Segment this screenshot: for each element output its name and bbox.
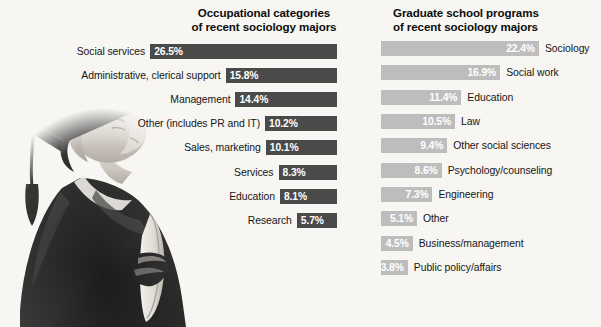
chart-row: 26.5%Social services	[140, 44, 337, 59]
bar-category-label: Research	[248, 213, 292, 228]
chart-row: 10.2%Other (includes PR and IT)	[140, 116, 337, 131]
bar: 26.5%Social services	[150, 44, 337, 59]
bar: 22.4%Sociology	[381, 41, 539, 56]
chart-row: 10.1%Sales, marketing	[140, 140, 337, 155]
chart-row: 15.8%Administrative, clerical support	[140, 68, 337, 83]
bar-category-label: Administrative, clerical support	[81, 68, 220, 83]
bar: 8.6%Psychology/counseling	[381, 163, 442, 178]
bar-category-label: Other social sciences	[453, 138, 551, 153]
bar: 15.8%Administrative, clerical support	[226, 68, 337, 83]
bar-category-label: Other (includes PR and IT)	[138, 116, 260, 131]
bar-category-label: Law	[461, 114, 480, 129]
bar-value-label: 16.9%	[467, 65, 496, 80]
bar-category-label: Education	[229, 189, 275, 204]
chart-row: 14.4%Management	[140, 92, 337, 107]
chart-row: 8.3%Services	[140, 165, 337, 180]
bar-value-label: 10.2%	[269, 116, 298, 131]
bar: 4.5%Business/management	[381, 236, 413, 251]
chart-title-graduate: Graduate school programs of recent socio…	[393, 6, 561, 33]
bar-category-label: Management	[170, 92, 230, 107]
bar-category-label: Public policy/affairs	[414, 260, 502, 275]
chart-title-graduate-line2: of recent sociology majors	[393, 20, 561, 34]
bar-category-label: Education	[467, 90, 513, 105]
bar-value-label: 4.5%	[386, 236, 409, 251]
chart-row: 11.4%Education	[381, 90, 541, 105]
bar-value-label: 9.4%	[420, 138, 443, 153]
bar: 10.5%Law	[381, 114, 455, 129]
chart-row: 3.8%Public policy/affairs	[381, 260, 541, 275]
bar-value-label: 22.4%	[506, 41, 535, 56]
bar-category-label: Services	[234, 165, 273, 180]
bar-category-label: Sales, marketing	[184, 140, 261, 155]
bar-value-label: 8.3%	[283, 165, 306, 180]
chart-row: 10.5%Law	[381, 114, 541, 129]
chart-title-graduate-line1: Graduate school programs	[393, 6, 561, 20]
chart-row: 9.4%Other social sciences	[381, 138, 541, 153]
infographic-canvas: Occupational categories of recent sociol…	[0, 0, 601, 327]
bar: 8.1%Education	[280, 189, 337, 204]
bar-value-label: 11.4%	[429, 90, 457, 105]
bar-category-label: Social services	[77, 44, 146, 59]
bar: 9.4%Other social sciences	[381, 138, 447, 153]
bar-category-label: Other	[423, 211, 449, 226]
bar-value-label: 5.1%	[390, 211, 413, 226]
bar: 11.4%Education	[381, 90, 461, 105]
bar: 10.2%Other (includes PR and IT)	[265, 116, 337, 131]
chart-row: 22.4%Sociology	[381, 41, 541, 56]
bar: 5.7%Research	[297, 213, 337, 228]
chart-row: 5.7%Research	[140, 213, 337, 228]
bar: 10.1%Sales, marketing	[266, 140, 337, 155]
bar-value-label: 8.1%	[284, 189, 307, 204]
bar: 7.3%Engineering	[381, 187, 432, 202]
bar-category-label: Social work	[506, 65, 559, 80]
bar-value-label: 14.4%	[239, 92, 268, 107]
bar-value-label: 8.6%	[415, 163, 438, 178]
bar: 5.1%Other	[381, 211, 417, 226]
chart-title-occupational: Occupational categories of recent sociol…	[189, 6, 339, 33]
bar: 14.4%Management	[235, 92, 337, 107]
chart-row: 4.5%Business/management	[381, 236, 541, 251]
bar-value-label: 15.8%	[230, 68, 259, 83]
bar-category-label: Psychology/counseling	[448, 163, 553, 178]
bar-category-label: Engineering	[438, 187, 493, 202]
bar-value-label: 5.7%	[301, 213, 324, 228]
bar: 16.9%Social work	[381, 65, 500, 80]
bar-value-label: 7.3%	[405, 187, 428, 202]
chart-row: 5.1%Other	[381, 211, 541, 226]
chart-row: 8.6%Psychology/counseling	[381, 163, 541, 178]
bar-value-label: 10.5%	[422, 114, 451, 129]
chart-title-occupational-line1: Occupational categories	[189, 6, 339, 20]
chart-row: 8.1%Education	[140, 189, 337, 204]
bar: 8.3%Services	[279, 165, 338, 180]
bar-value-label: 10.1%	[270, 140, 299, 155]
chart-title-occupational-line2: of recent sociology majors	[189, 20, 339, 34]
bar-value-label: 26.5%	[154, 44, 183, 59]
chart-row: 16.9%Social work	[381, 65, 541, 80]
chart-row: 7.3%Engineering	[381, 187, 541, 202]
bar-category-label: Business/management	[419, 236, 524, 251]
bar-value-label: 3.8%	[381, 260, 404, 275]
bar: 3.8%Public policy/affairs	[381, 260, 408, 275]
bar-category-label: Sociology	[545, 41, 590, 56]
